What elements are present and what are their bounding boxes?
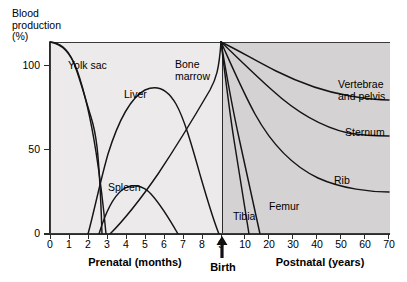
y-axis-title: Blood production (%) [12,8,61,43]
x-axis-caption-prenatal: Prenatal (months) [55,256,215,268]
blood-production-chart: Blood production (%) 100 50 0 [0,0,407,282]
curve-femur [221,42,260,234]
y-axis-line [49,42,50,234]
curve-label-sternum: Sternum [345,127,385,139]
curve-label-vertebrae-and-pelvis: Vertebrae and pelvis [338,79,385,102]
x-tick-label-post-70: 70 [378,238,400,250]
birth-label: Birth [198,261,248,273]
x-tick-label-post-50: 50 [330,238,352,250]
birth-arrow-icon [216,236,228,258]
x-tick-label-post-20: 20 [258,238,280,250]
y-tick-50 [44,149,50,150]
curve-tibia [221,42,249,234]
x-tick-label-post-40: 40 [306,238,328,250]
curve-label-tibia: Tibia [233,211,255,223]
x-tick-label-post-10: 10 [234,238,256,250]
y-tick-label-100: 100 [14,59,40,71]
x-tick-label-post-60: 60 [354,238,376,250]
x-axis-caption-postnatal: Postnatal (years) [245,256,395,268]
curve-label-femur: Femur [269,201,299,213]
x-axis-line [44,234,390,235]
y-tick-label-0: 0 [14,227,40,239]
x-tick-label-post-30: 30 [282,238,304,250]
curve-label-bone-marrow: Bone marrow [175,59,210,82]
curve-label-yolk-sac: Yolk sac [68,60,107,72]
curve-label-rib: Rib [334,175,350,187]
y-tick-100 [44,65,50,66]
curve-label-spleen: Spleen [108,182,141,194]
curve-label-liver: Liver [124,89,147,101]
y-tick-label-50: 50 [14,143,40,155]
